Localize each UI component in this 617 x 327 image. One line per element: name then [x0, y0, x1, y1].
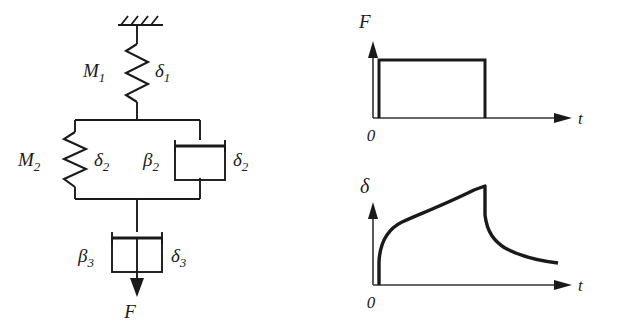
force-x-axis-label: t [578, 109, 584, 128]
fixed-support [118, 16, 163, 25]
chart-force-vs-time: F t 0 [358, 11, 584, 145]
strain-origin-label: 0 [367, 293, 376, 312]
strain-y-axis-arrowhead [368, 202, 378, 219]
label-delta2-spring: δ2 [94, 149, 110, 174]
spring-2-coil [64, 132, 86, 187]
label-M2: M2 [17, 149, 41, 174]
hatch-stroke [141, 16, 148, 25]
label-force-F: F [123, 301, 136, 322]
label-beta2: β2 [142, 149, 159, 174]
force-arrow-head [130, 278, 144, 297]
spring-1 [126, 25, 148, 120]
hatch-stroke [121, 16, 128, 25]
label-delta3: δ3 [171, 245, 187, 270]
label-beta3: β3 [77, 245, 94, 270]
figure-root: M1 δ1 M2 δ2 β2 δ2 β3 δ3 F F t 0 [0, 0, 617, 327]
hatch-stroke [131, 16, 138, 25]
force-pulse-trace [379, 60, 485, 118]
label-delta2-dashpot: δ2 [233, 149, 249, 174]
hatch-stroke [151, 16, 158, 25]
spring-1-coil [126, 44, 148, 102]
strain-creep-recovery-trace [379, 186, 558, 285]
strain-x-axis-arrowhead [554, 280, 572, 290]
applied-force-arrow [130, 238, 144, 297]
model-diagram: M1 δ1 M2 δ2 β2 δ2 β3 δ3 F [17, 16, 249, 322]
spring-2 [64, 132, 86, 187]
force-y-axis-label: F [358, 11, 371, 32]
dashpot-2-cylinder [175, 146, 225, 180]
strain-x-axis-label: t [578, 276, 584, 295]
dashpot-2 [175, 140, 225, 180]
chart-strain-vs-time: δ t 0 [360, 175, 584, 312]
force-y-axis-arrowhead [368, 41, 378, 58]
force-x-axis-arrowhead [554, 113, 572, 123]
force-origin-label: 0 [367, 126, 376, 145]
strain-y-axis-label: δ [360, 175, 370, 197]
label-M1: M1 [82, 60, 105, 85]
label-delta1: δ1 [155, 60, 170, 85]
